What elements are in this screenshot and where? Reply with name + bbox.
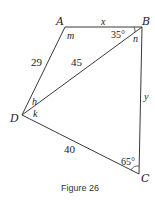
- angle-label-c: 65°: [121, 156, 135, 167]
- diagonal-bd: [22, 27, 142, 115]
- quadrilateral-figure: A B C D x 29 45 y 40 m 35° n h k 65° Fig…: [0, 0, 155, 203]
- side-bc: [139, 27, 142, 174]
- angle-arc-b: [134, 27, 135, 32]
- vertex-label-a: A: [55, 15, 64, 28]
- angle-label-d-lower: k: [33, 108, 38, 119]
- angle-label-b-top: 35°: [111, 29, 125, 40]
- side-label-dc: 40: [64, 143, 76, 155]
- vertex-label-c: C: [141, 172, 150, 185]
- side-label-ad: 29: [31, 56, 43, 68]
- vertex-label-b: B: [141, 15, 150, 28]
- angle-label-b-inner: n: [133, 33, 138, 44]
- figure-caption: Figure 26: [61, 183, 99, 193]
- angle-label-a: m: [67, 30, 74, 41]
- side-label-ab: x: [100, 16, 106, 27]
- side-label-bd: 45: [71, 56, 83, 68]
- side-label-bc: y: [143, 91, 149, 102]
- side-ad: [22, 27, 65, 115]
- angle-label-d-upper: h: [32, 96, 37, 107]
- vertex-label-d: D: [9, 112, 19, 125]
